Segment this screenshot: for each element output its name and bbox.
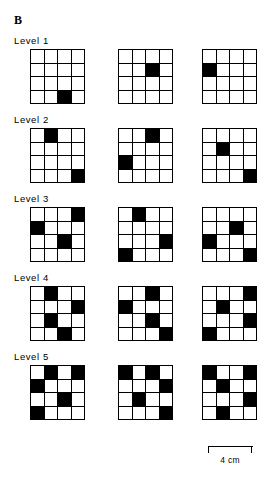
grid-cell-filled[interactable]	[203, 366, 217, 380]
grid-cell-filled[interactable]	[203, 235, 217, 249]
grid-cell-filled[interactable]	[217, 143, 231, 157]
grid-cell-empty[interactable]	[45, 235, 59, 249]
level-2-pattern-3[interactable]	[202, 128, 257, 183]
grid-cell-empty[interactable]	[119, 77, 133, 91]
grid-cell-empty[interactable]	[244, 77, 258, 91]
grid-cell-empty[interactable]	[133, 407, 147, 421]
grid-cell-empty[interactable]	[160, 143, 174, 157]
grid-cell-empty[interactable]	[244, 235, 258, 249]
grid-cell-empty[interactable]	[119, 143, 133, 157]
grid-cell-empty[interactable]	[133, 328, 147, 342]
grid-cell-filled[interactable]	[146, 287, 160, 301]
grid-cell-empty[interactable]	[146, 77, 160, 91]
level-5-pattern-3[interactable]	[202, 365, 257, 420]
grid-cell-empty[interactable]	[230, 156, 244, 170]
grid-cell-empty[interactable]	[146, 222, 160, 236]
grid-cell-empty[interactable]	[160, 393, 174, 407]
grid-cell-filled[interactable]	[119, 366, 133, 380]
grid-cell-empty[interactable]	[230, 64, 244, 78]
grid-cell-filled[interactable]	[45, 129, 59, 143]
grid-cell-empty[interactable]	[230, 393, 244, 407]
grid-cell-empty[interactable]	[244, 91, 258, 105]
grid-cell-empty[interactable]	[160, 249, 174, 263]
grid-cell-empty[interactable]	[230, 208, 244, 222]
grid-cell-empty[interactable]	[72, 91, 86, 105]
grid-cell-empty[interactable]	[72, 156, 86, 170]
grid-cell-empty[interactable]	[72, 328, 86, 342]
grid-cell-filled[interactable]	[244, 393, 258, 407]
grid-cell-empty[interactable]	[146, 235, 160, 249]
grid-cell-empty[interactable]	[58, 301, 72, 315]
grid-cell-empty[interactable]	[217, 328, 231, 342]
grid-cell-empty[interactable]	[133, 366, 147, 380]
grid-cell-empty[interactable]	[133, 235, 147, 249]
grid-cell-empty[interactable]	[203, 393, 217, 407]
grid-cell-empty[interactable]	[217, 208, 231, 222]
grid-cell-empty[interactable]	[119, 380, 133, 394]
grid-cell-empty[interactable]	[133, 64, 147, 78]
level-5-pattern-1[interactable]	[30, 365, 85, 420]
grid-cell-empty[interactable]	[217, 366, 231, 380]
grid-cell-empty[interactable]	[72, 143, 86, 157]
grid-cell-empty[interactable]	[31, 208, 45, 222]
grid-cell-empty[interactable]	[146, 208, 160, 222]
grid-cell-empty[interactable]	[58, 366, 72, 380]
grid-cell-empty[interactable]	[203, 301, 217, 315]
grid-cell-filled[interactable]	[146, 64, 160, 78]
grid-cell-filled[interactable]	[244, 314, 258, 328]
grid-cell-empty[interactable]	[31, 64, 45, 78]
level-2-pattern-1[interactable]	[30, 128, 85, 183]
grid-cell-empty[interactable]	[133, 156, 147, 170]
grid-cell-empty[interactable]	[31, 50, 45, 64]
grid-cell-empty[interactable]	[58, 314, 72, 328]
grid-cell-empty[interactable]	[72, 129, 86, 143]
grid-cell-empty[interactable]	[203, 249, 217, 263]
grid-cell-empty[interactable]	[217, 287, 231, 301]
grid-cell-empty[interactable]	[31, 287, 45, 301]
grid-cell-empty[interactable]	[31, 249, 45, 263]
level-3-pattern-1[interactable]	[30, 207, 85, 262]
grid-cell-empty[interactable]	[244, 64, 258, 78]
grid-cell-filled[interactable]	[58, 235, 72, 249]
grid-cell-empty[interactable]	[119, 328, 133, 342]
grid-cell-empty[interactable]	[244, 380, 258, 394]
grid-cell-empty[interactable]	[133, 314, 147, 328]
grid-cell-empty[interactable]	[146, 328, 160, 342]
grid-cell-empty[interactable]	[203, 287, 217, 301]
grid-cell-empty[interactable]	[31, 328, 45, 342]
grid-cell-empty[interactable]	[160, 301, 174, 315]
level-3-pattern-2[interactable]	[118, 207, 173, 262]
grid-cell-empty[interactable]	[72, 77, 86, 91]
grid-cell-empty[interactable]	[119, 407, 133, 421]
grid-cell-empty[interactable]	[160, 129, 174, 143]
grid-cell-empty[interactable]	[72, 50, 86, 64]
grid-cell-empty[interactable]	[203, 208, 217, 222]
grid-cell-empty[interactable]	[133, 129, 147, 143]
grid-cell-empty[interactable]	[45, 77, 59, 91]
grid-cell-empty[interactable]	[217, 156, 231, 170]
grid-cell-empty[interactable]	[119, 235, 133, 249]
grid-cell-empty[interactable]	[230, 249, 244, 263]
grid-cell-empty[interactable]	[133, 77, 147, 91]
grid-cell-empty[interactable]	[217, 235, 231, 249]
grid-cell-empty[interactable]	[217, 393, 231, 407]
grid-cell-filled[interactable]	[217, 407, 231, 421]
grid-cell-empty[interactable]	[146, 143, 160, 157]
grid-cell-empty[interactable]	[31, 129, 45, 143]
grid-cell-empty[interactable]	[119, 208, 133, 222]
grid-cell-filled[interactable]	[58, 393, 72, 407]
grid-cell-filled[interactable]	[217, 301, 231, 315]
grid-cell-empty[interactable]	[31, 170, 45, 184]
grid-cell-empty[interactable]	[119, 393, 133, 407]
grid-cell-empty[interactable]	[217, 50, 231, 64]
grid-cell-filled[interactable]	[160, 328, 174, 342]
grid-cell-filled[interactable]	[45, 287, 59, 301]
grid-cell-filled[interactable]	[146, 314, 160, 328]
grid-cell-empty[interactable]	[230, 77, 244, 91]
grid-cell-empty[interactable]	[244, 143, 258, 157]
grid-cell-empty[interactable]	[119, 222, 133, 236]
grid-cell-empty[interactable]	[45, 64, 59, 78]
grid-cell-empty[interactable]	[133, 380, 147, 394]
grid-cell-empty[interactable]	[146, 249, 160, 263]
grid-cell-empty[interactable]	[45, 156, 59, 170]
